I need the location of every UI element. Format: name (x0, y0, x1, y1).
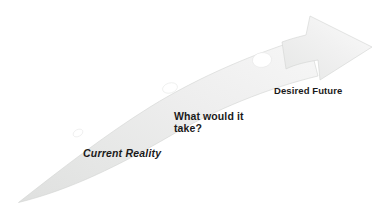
arrow-body-group (19, 37, 319, 203)
curved-arrow-graphic (0, 0, 381, 218)
label-current-reality: Current Reality (83, 147, 161, 159)
milestone-hole-1 (72, 128, 84, 139)
label-desired-future: Desired Future (274, 85, 342, 96)
arrow-body-path (19, 37, 319, 203)
label-what-would-it-take: What would it take? (174, 110, 244, 135)
diagram-canvas: Current Reality What would it take? Desi… (0, 0, 381, 218)
